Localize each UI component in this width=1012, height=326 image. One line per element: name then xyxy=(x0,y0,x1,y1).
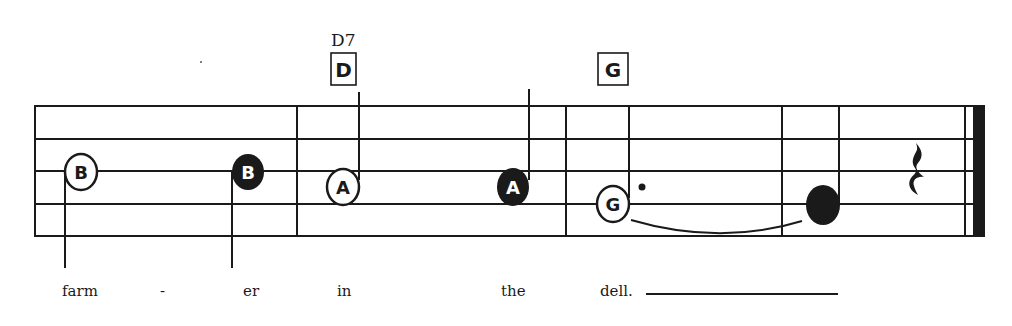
chord-box-letter: G xyxy=(605,58,621,82)
tie xyxy=(631,220,802,233)
note-letter: B xyxy=(241,162,255,183)
note-letter: B xyxy=(74,162,88,183)
note-letter: G xyxy=(606,194,621,215)
chord-name: D7 xyxy=(331,30,355,50)
chord-d7: D7 D xyxy=(331,30,356,85)
quarter-rest-icon xyxy=(909,143,924,195)
music-staff: D7 D G B B A A G xyxy=(0,0,1012,326)
lyric-syllable: the xyxy=(501,282,526,300)
note-b-half: B xyxy=(65,154,97,268)
speck xyxy=(200,61,202,63)
note-g-tied-quarter xyxy=(806,106,840,225)
augmentation-dot xyxy=(639,184,646,191)
chord-g: G xyxy=(598,53,628,85)
lyric-syllable: farm xyxy=(62,282,98,300)
final-barline xyxy=(973,105,985,237)
lyrics: farm - er in the dell. xyxy=(62,282,838,300)
note-b-quarter: B xyxy=(232,154,264,268)
chord-box-letter: D xyxy=(335,58,352,82)
note-letter: A xyxy=(336,177,350,198)
lyric-syllable: in xyxy=(337,282,352,300)
note-a-half: A xyxy=(327,92,359,205)
lyric-syllable: dell. xyxy=(600,282,633,300)
lyric-hyphen: - xyxy=(160,282,165,300)
lyric-syllable: er xyxy=(243,282,260,300)
note-letter: A xyxy=(506,177,520,198)
